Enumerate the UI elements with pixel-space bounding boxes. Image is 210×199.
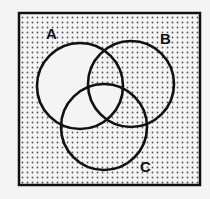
label-b: B: [160, 30, 171, 47]
venn-svg: A B C: [0, 0, 210, 199]
venn-diagram: A B C: [0, 0, 210, 199]
label-a: A: [46, 25, 57, 42]
label-c: C: [140, 158, 151, 175]
